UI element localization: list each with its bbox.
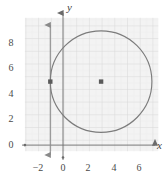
point-tangent: [48, 79, 52, 83]
x-tick-4: 4: [107, 163, 121, 173]
y-tick-8: 8: [4, 38, 18, 48]
y-tick-4: 4: [4, 89, 18, 99]
x-tick-6: 6: [132, 163, 146, 173]
y-tick-0: 0: [4, 140, 18, 150]
graph-figure: y x 0 2 4 6 8 −2 0 2 4 6: [0, 0, 168, 183]
x-tick-0: 0: [56, 163, 70, 173]
x-tick-2: 2: [81, 163, 95, 173]
y-axis-label: y: [67, 2, 72, 13]
y-tick-2: 2: [4, 114, 18, 124]
y-tick-6: 6: [4, 63, 18, 73]
coordinate-plane: [0, 0, 168, 183]
x-axis-label: x: [157, 140, 162, 151]
point-center: [99, 79, 103, 83]
x-tick-neg2: −2: [30, 163, 46, 173]
